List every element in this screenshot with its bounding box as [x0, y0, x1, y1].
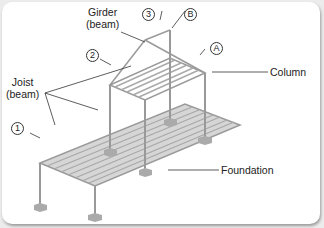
grid-marker-b: B — [184, 8, 197, 21]
joist-label-sub: (beam) — [6, 88, 39, 100]
foundation-label: Foundation — [221, 164, 274, 176]
column-label: Column — [270, 66, 306, 78]
grid-marker-1: 1 — [11, 122, 24, 135]
girder-label: Girder (beam) — [86, 6, 119, 30]
steel-frame-illustration — [0, 0, 324, 228]
grid-marker-a: A — [210, 42, 223, 55]
joist-label: Joist (beam) — [6, 76, 39, 100]
girder-label-text: Girder — [86, 6, 119, 18]
roof-joists — [115, 60, 199, 97]
grid-marker-3: 3 — [142, 8, 155, 21]
girder-label-sub: (beam) — [86, 18, 119, 30]
grid-marker-2: 2 — [86, 49, 99, 62]
joist-label-text: Joist — [6, 76, 39, 88]
